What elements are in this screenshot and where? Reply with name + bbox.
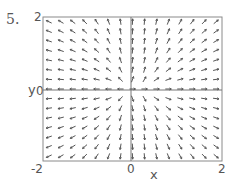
vector-field-plot [0, 0, 237, 186]
field-arrows [46, 19, 219, 159]
